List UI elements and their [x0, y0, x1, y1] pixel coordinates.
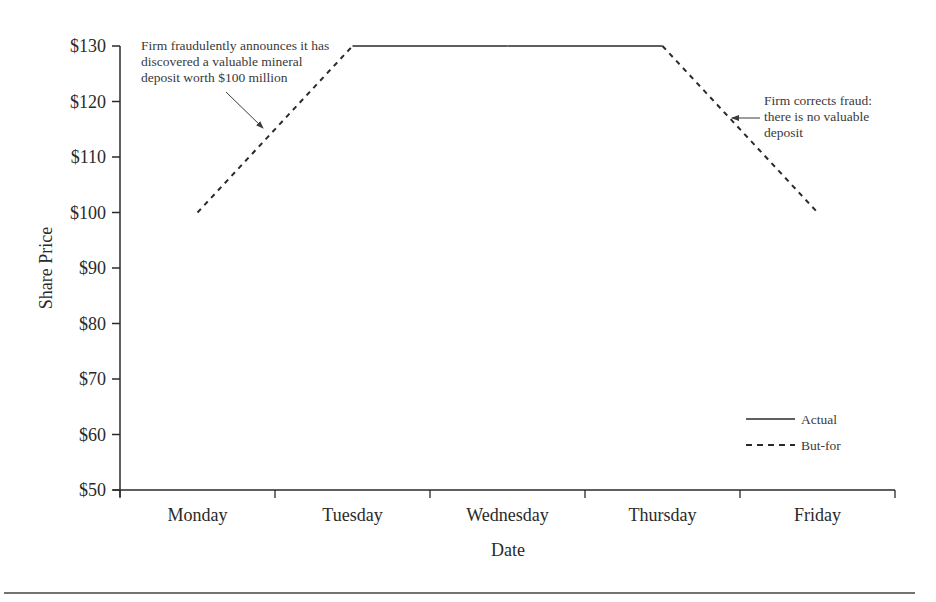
y-tick-label: $130 [70, 36, 106, 56]
legend-label: Actual [801, 412, 837, 427]
y-tick-label: $110 [71, 147, 106, 167]
y-tick: $110 [71, 147, 120, 167]
y-tick-label: $80 [79, 314, 106, 334]
x-tick-label: Wednesday [466, 505, 549, 525]
legend-label: But-for [801, 438, 841, 453]
y-tick-label: $60 [79, 425, 106, 445]
x-tick-label: Thursday [629, 505, 697, 525]
y-tick: $90 [79, 258, 120, 278]
x-tick-label: Friday [794, 505, 841, 525]
y-tick: $70 [79, 369, 120, 389]
annotation-line: deposit worth $100 million [141, 70, 288, 85]
x-axis-ticks: MondayTuesdayWednesdayThursdayFriday [120, 490, 895, 525]
annotation-line: there is no valuable [764, 109, 869, 124]
annotation-fraud-announcement: Firm fraudulently announces it has disco… [141, 38, 329, 128]
y-tick: $120 [70, 92, 120, 112]
series-but-for [198, 46, 818, 213]
annotation-line: discovered a valuable mineral [141, 54, 303, 69]
y-tick-label: $90 [79, 258, 106, 278]
x-tick-label: Tuesday [322, 505, 382, 525]
legend: Actual But-for [746, 412, 841, 453]
y-tick: $100 [70, 203, 120, 223]
annotation-line: deposit [764, 125, 803, 140]
legend-item-but-for: But-for [746, 438, 841, 453]
share-price-chart: $50$60$70$80$90$100$110$120$130 MondayTu… [0, 0, 936, 602]
y-tick-label: $120 [70, 92, 106, 112]
y-tick-label: $70 [79, 369, 106, 389]
annotation-line: Firm corrects fraud: [764, 93, 872, 108]
x-axis-title: Date [491, 540, 525, 560]
y-axis: $50$60$70$80$90$100$110$120$130 [70, 36, 120, 500]
annotation-arrow-icon [226, 92, 263, 128]
y-tick-label: $100 [70, 203, 106, 223]
annotation-line: Firm fraudulently announces it has [141, 38, 329, 53]
y-tick: $130 [70, 36, 120, 56]
legend-item-actual: Actual [746, 412, 837, 427]
y-axis-ticks: $50$60$70$80$90$100$110$120$130 [70, 36, 120, 500]
x-axis: MondayTuesdayWednesdayThursdayFriday [113, 490, 895, 525]
y-tick-label: $50 [79, 480, 106, 500]
x-tick-label: Monday [168, 505, 228, 525]
y-tick: $80 [79, 314, 120, 334]
annotation-fraud-correction: Firm corrects fraud: there is no valuabl… [732, 93, 872, 140]
y-axis-title: Share Price [36, 227, 56, 309]
y-tick: $60 [79, 425, 120, 445]
plot-area [198, 46, 818, 213]
